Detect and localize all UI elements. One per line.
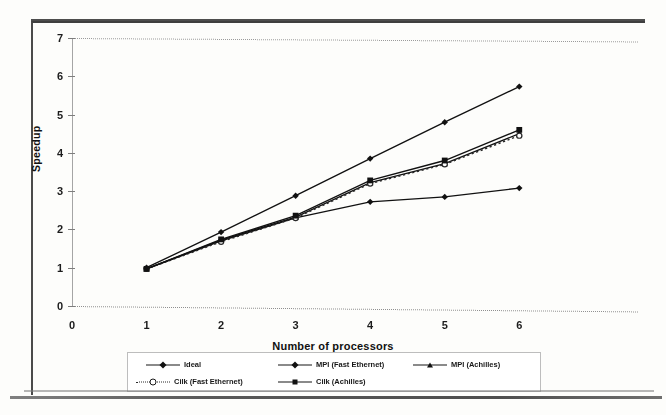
- y-tick-label: 2: [57, 223, 63, 235]
- scan-artifact-band: [24, 390, 654, 392]
- series-marker: [442, 119, 448, 125]
- series-marker: [367, 155, 373, 161]
- x-tick-label: 3: [293, 319, 299, 331]
- legend-label: MPI (Fast Ethernet): [316, 360, 384, 369]
- y-tick-label: 7: [57, 32, 63, 44]
- y-tick-label: 4: [57, 147, 63, 159]
- series-marker: [442, 194, 448, 200]
- legend-row: IdealMPI (Fast Ethernet)MPI (Achilles): [128, 356, 540, 373]
- series-marker: [293, 213, 299, 219]
- legend-symbol-diamond-icon: [146, 360, 180, 370]
- legend-label: MPI (Achilles): [451, 360, 500, 369]
- legend-label: Cilk (Fast Ethernet): [174, 377, 243, 386]
- legend-item-mpi-fast-ethernet[interactable]: MPI (Fast Ethernet): [278, 356, 384, 373]
- y-tick-label: 0: [57, 300, 63, 312]
- x-tick-label: 1: [143, 319, 149, 331]
- legend-item-cilk-fast-ethernet[interactable]: Cilk (Fast Ethernet): [136, 373, 243, 390]
- series-marker: [292, 193, 298, 199]
- y-tick: [68, 306, 75, 307]
- x-tick-label: 0: [69, 319, 75, 331]
- series-marker: [367, 199, 373, 205]
- series-marker: [442, 158, 448, 164]
- legend-symbol-square-icon: [278, 377, 312, 387]
- series-marker: [218, 236, 224, 242]
- legend-item-cilk-achilles[interactable]: Cilk (Achilles): [278, 373, 366, 390]
- series-marker: [516, 83, 522, 89]
- legend-label: Ideal: [184, 360, 201, 369]
- legend-row: Cilk (Fast Ethernet)Cilk (Achilles): [128, 373, 540, 390]
- y-tick-label: 3: [57, 185, 63, 197]
- frame-bottom-rule: [10, 396, 662, 399]
- y-tick-label: 6: [57, 70, 63, 82]
- chart-legend: IdealMPI (Fast Ethernet)MPI (Achilles) C…: [127, 352, 541, 392]
- legend-marker-triangle-icon: [427, 362, 433, 367]
- y-tick-label: 1: [57, 262, 63, 274]
- x-tick-label: 2: [218, 319, 224, 331]
- legend-symbol-triangle-icon: [413, 360, 447, 370]
- scanned-page: Speedup 01234567 0123456 Number of proce…: [0, 0, 666, 415]
- plot-area: 01234567 0123456: [72, 38, 564, 306]
- series-marker: [516, 127, 522, 133]
- series-marker: [218, 229, 224, 235]
- series-layer: [72, 38, 564, 306]
- series-marker: [367, 178, 373, 184]
- legend-marker-diamond-icon: [291, 361, 298, 368]
- series-marker: [144, 266, 150, 272]
- x-axis-title: Number of processors: [0, 340, 666, 352]
- x-tick-label: 4: [367, 319, 373, 331]
- legend-marker-square-icon: [293, 379, 298, 384]
- x-tick-label: 6: [516, 319, 522, 331]
- legend-item-ideal[interactable]: Ideal: [146, 356, 201, 373]
- series-ideal: [143, 83, 522, 270]
- y-tick-label: 5: [57, 109, 63, 121]
- legend-item-mpi-achilles[interactable]: MPI (Achilles): [413, 356, 500, 373]
- legend-symbol-circle-icon: [136, 377, 170, 387]
- y-axis-title: Speedup: [30, 126, 42, 172]
- legend-symbol-diamond-icon: [278, 360, 312, 370]
- legend-marker-diamond-icon: [159, 361, 166, 368]
- legend-marker-circle-icon: [150, 378, 157, 385]
- series-cilk-fast-ethernet: [144, 133, 522, 271]
- series-marker: [517, 133, 522, 138]
- series-marker: [516, 185, 522, 191]
- x-tick-label: 5: [442, 319, 448, 331]
- series-line: [147, 87, 520, 268]
- legend-label: Cilk (Achilles): [316, 377, 366, 386]
